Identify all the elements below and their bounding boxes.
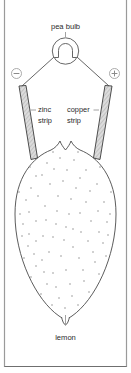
copper-strip-label-line2: strip — [67, 116, 81, 125]
zinc-strip-label-line2: strip — [38, 116, 52, 125]
copper-strip-label-line1: copper — [67, 105, 90, 114]
copper-strip — [94, 86, 113, 160]
pea-bulb-label: pea bulb — [51, 22, 80, 31]
lemon-body — [15, 141, 116, 325]
positive-terminal-icon — [110, 69, 120, 79]
pea-bulb-icon — [52, 38, 78, 64]
zinc-strip-label-line1: zinc — [38, 105, 51, 114]
lemon-battery-figure: pea bulb zinc strip copper strip lemon — [0, 0, 131, 373]
negative-terminal-icon — [12, 69, 22, 79]
lemon-label: lemon — [55, 333, 76, 342]
zinc-strip — [19, 86, 38, 160]
